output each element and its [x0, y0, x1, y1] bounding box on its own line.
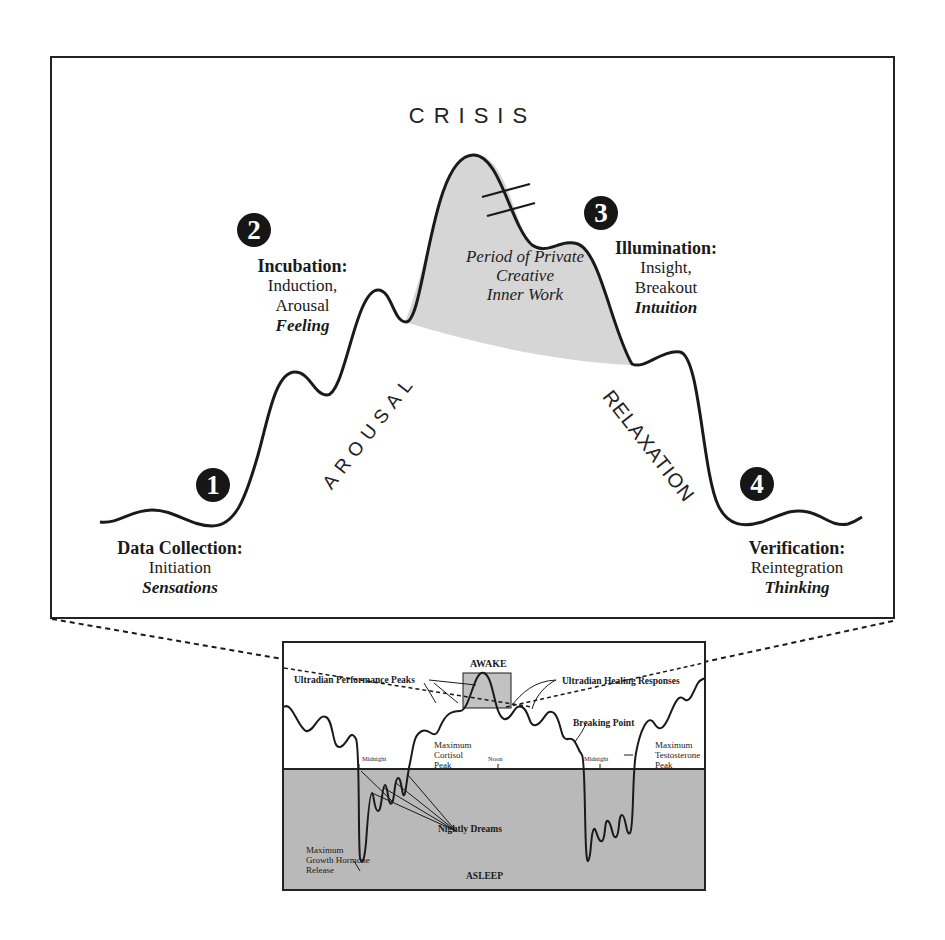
stage-4-description: Verification: Reintegration Thinking — [722, 538, 872, 598]
stage-3-title: Illumination: — [602, 238, 730, 258]
stage-1-description: Data Collection: Initiation Sensations — [95, 538, 265, 598]
stage-2-subtitle-line-2: Arousal — [245, 296, 360, 316]
cortisol-line-1: Maximum — [434, 740, 472, 750]
period-line-3: Inner Work — [430, 285, 620, 304]
period-line-2: Creative — [430, 266, 620, 285]
stage-2-description: Incubation: Induction, Arousal Feeling — [245, 256, 360, 336]
stage-3-subtitle-line-2: Breakout — [602, 278, 730, 298]
midnight-2-label: Midnight — [584, 755, 608, 762]
stage-2-title: Incubation: — [245, 256, 360, 276]
stage-3-description: Illumination: Insight, Breakout Intuitio… — [602, 238, 730, 318]
stage-3-badge: 3 — [584, 196, 618, 230]
stage-4-subtitle: Reintegration — [722, 558, 872, 578]
growth-hormone-line-1: Maximum — [306, 845, 370, 855]
cortisol-line-2: Cortisol — [434, 750, 472, 760]
ultradian-performance-peaks-label: Ultradian Performance Peaks — [294, 675, 415, 685]
testosterone-line-1: Maximum — [655, 740, 700, 750]
breaking-point-label: Breaking Point — [573, 718, 634, 728]
testosterone-peak-label: Maximum Testosterone Peak — [655, 740, 700, 770]
period-line-1: Period of Private — [430, 247, 620, 266]
stage-1-subtitle: Initiation — [95, 558, 265, 578]
ultradian-rhythm-inset: AWAKE Ultradian Performance Peaks Ultrad… — [282, 641, 706, 891]
noon-label: Noon — [488, 755, 502, 762]
cortisol-line-3: Peak — [434, 760, 472, 770]
period-of-private-creative-work-label: Period of Private Creative Inner Work — [430, 247, 620, 304]
testosterone-line-3: Peak — [655, 760, 700, 770]
cortisol-peak-label: Maximum Cortisol Peak — [434, 740, 472, 770]
awake-highlight-box — [463, 673, 511, 708]
stage-4-mode: Thinking — [722, 578, 872, 598]
stage-4-badge: 4 — [740, 467, 774, 501]
stage-1-badge: 1 — [196, 468, 230, 502]
stage-2-subtitle-line-1: Induction, — [245, 276, 360, 296]
growth-hormone-line-2: Growth Hormone — [306, 855, 370, 865]
crisis-label: CRISIS — [0, 103, 945, 129]
stage-1-title: Data Collection: — [95, 538, 265, 558]
stage-1-mode: Sensations — [95, 578, 265, 598]
growth-hormone-line-3: Release — [306, 865, 370, 875]
awake-label: AWAKE — [470, 659, 507, 669]
growth-hormone-label: Maximum Growth Hormone Release — [306, 845, 370, 875]
stage-3-subtitle-line-1: Insight, — [602, 258, 730, 278]
stage-2-mode: Feeling — [245, 316, 360, 336]
stage-2-badge: 2 — [237, 213, 271, 247]
stage-4-title: Verification: — [722, 538, 872, 558]
ultradian-healing-responses-label: Ultradian Healing Responses — [562, 676, 680, 686]
midnight-1-label: Midnight — [362, 755, 386, 762]
asleep-label: ASLEEP — [466, 871, 503, 881]
stage-3-mode: Intuition — [602, 298, 730, 318]
testosterone-line-2: Testosterone — [655, 750, 700, 760]
nightly-dreams-label: Nightly Dreams — [438, 824, 502, 834]
